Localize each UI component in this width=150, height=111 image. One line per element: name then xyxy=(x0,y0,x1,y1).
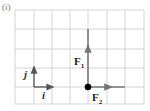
origin-point xyxy=(85,84,92,91)
i-label: i xyxy=(42,90,45,101)
j-label: j xyxy=(24,69,27,80)
unit-vector-j xyxy=(32,67,37,87)
vector-F1 xyxy=(86,29,91,87)
F1-label: F1 xyxy=(74,56,84,70)
vector-F2 xyxy=(88,85,125,90)
F2-label: F2 xyxy=(92,92,102,106)
